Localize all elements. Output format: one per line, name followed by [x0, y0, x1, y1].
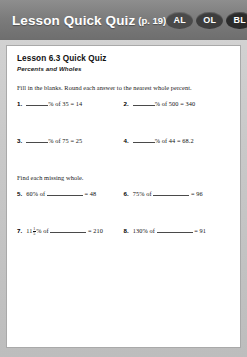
problem-number: 8.	[124, 227, 129, 234]
problem-4: 4. % of 44 = 68.2	[124, 137, 231, 144]
problem-number: 1.	[17, 100, 22, 107]
problem-number: 5.	[17, 190, 22, 197]
problem-7: 7. 1115% of = 210	[17, 227, 124, 236]
problem-number: 2.	[124, 100, 129, 107]
problem-2: 2. % of 500 = 340	[124, 100, 231, 107]
problem-number: 7.	[17, 227, 22, 234]
answer-blank[interactable]	[157, 232, 193, 233]
problem-text: % of 44 = 68.2	[133, 137, 194, 144]
problem-expression-post: = 210	[86, 227, 103, 234]
problem-text: 75% of = 96	[133, 190, 203, 197]
problem-expression-post: = 91	[193, 227, 207, 234]
problem-row: 1. % of 35 = 14 2. % of 500 = 340	[17, 100, 230, 107]
problem-text: 130% of = 91	[133, 227, 206, 234]
answer-blank[interactable]	[26, 142, 48, 143]
header-bar: Lesson Quick Quiz (p. 19) AL OL BL	[0, 0, 247, 40]
page-reference: (p. 19)	[138, 15, 166, 26]
problem-number: 6.	[124, 190, 129, 197]
answer-blank[interactable]	[26, 105, 48, 106]
problem-row: 5. 60% of = 48 6. 75% of = 96	[17, 190, 230, 197]
badge-bl[interactable]: BL	[226, 12, 247, 29]
section2-problems: 5. 60% of = 48 6. 75% of = 96 7. 1115% o…	[17, 190, 230, 236]
problem-number: 3.	[17, 137, 22, 144]
problem-text: 1115% of = 210	[26, 227, 103, 236]
problem-expression: % of 35 = 14	[48, 100, 82, 107]
problem-text: % of 500 = 340	[133, 100, 196, 107]
quiz-title: Lesson 6.3 Quick Quiz	[17, 54, 230, 64]
section2-directions: Find each missing whole.	[17, 174, 230, 181]
badge-al[interactable]: AL	[166, 12, 193, 29]
problem-row: 7. 1115% of = 210 8. 130% of = 91	[17, 227, 230, 236]
sheet-container: Lesson 6.3 Quick Quiz Percents and Whole…	[0, 40, 247, 348]
problem-row: 3. % of 75 = 25 4. % of 44 = 68.2	[17, 137, 230, 144]
answer-blank[interactable]	[50, 232, 86, 233]
problem-6: 6. 75% of = 96	[124, 190, 231, 197]
problem-expression-post: = 48	[83, 190, 97, 197]
problem-text: % of 35 = 14	[26, 100, 82, 107]
problem-number: 4.	[124, 137, 129, 144]
problem-expression: % of 44 = 68.2	[155, 137, 194, 144]
problem-expression-pre: 130% of	[133, 227, 157, 234]
fraction-denominator: 5	[33, 232, 36, 236]
mixed-fraction: 15	[33, 227, 36, 236]
problem-text: % of 75 = 25	[26, 137, 82, 144]
problem-expression-post: = 96	[189, 190, 203, 197]
worksheet-sheet: Lesson 6.3 Quick Quiz Percents and Whole…	[6, 45, 241, 348]
level-badge-group: AL OL BL	[166, 12, 247, 29]
answer-blank[interactable]	[133, 142, 155, 143]
worksheet-page: Lesson Quick Quiz (p. 19) AL OL BL Lesso…	[0, 0, 247, 357]
problem-1: 1. % of 35 = 14	[17, 100, 124, 107]
answer-blank[interactable]	[133, 105, 155, 106]
problem-5: 5. 60% of = 48	[17, 190, 124, 197]
quiz-subtitle: Percents and Wholes	[17, 65, 230, 72]
section1-problems: 1. % of 35 = 14 2. % of 500 = 340 3. % o…	[17, 100, 230, 144]
problem-expression: % of 500 = 340	[155, 100, 196, 107]
answer-blank[interactable]	[47, 195, 83, 196]
problem-expression-pre: 75% of	[133, 190, 154, 197]
problem-8: 8. 130% of = 91	[124, 227, 231, 236]
problem-expression-pre: 11	[26, 227, 32, 234]
badge-ol[interactable]: OL	[196, 12, 223, 29]
problem-expression-pre: 60% of	[26, 190, 47, 197]
page-title: Lesson Quick Quiz	[12, 13, 135, 28]
problem-expression: % of 75 = 25	[48, 137, 82, 144]
problem-text: 60% of = 48	[26, 190, 96, 197]
problem-3: 3. % of 75 = 25	[17, 137, 124, 144]
problem-expression-mid: % of	[36, 227, 50, 234]
section1-directions: Fill in the blanks. Round each answer to…	[17, 84, 230, 91]
answer-blank[interactable]	[153, 195, 189, 196]
